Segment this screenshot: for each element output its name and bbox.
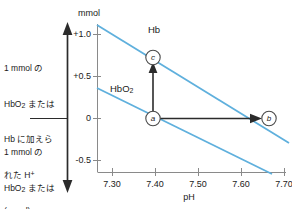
x-axis-title: pH xyxy=(169,192,209,204)
caption-upper-line-2: HbO2 または xyxy=(4,99,66,111)
x-tick-label-1: 7.30 xyxy=(95,179,129,191)
arrow-a-to-c xyxy=(149,62,158,114)
caption-upper-line-1: 1 mmol の xyxy=(4,63,66,75)
series-label-hbo2: HbO2 xyxy=(110,83,133,96)
x-tick-label-5: 7.70 xyxy=(267,179,292,191)
series-label-hbo2-subscript: 2 xyxy=(130,87,134,94)
caption-lower-line-2: HbO2 または xyxy=(4,183,66,195)
x-tick-label-2: 7.40 xyxy=(138,179,172,191)
marker-label-b: b xyxy=(262,112,276,126)
caption-lower-line-2-pre: HbO xyxy=(4,183,21,193)
caption-lower: 1 mmol の HbO2 または Hb から除去 された H+ (mmol) xyxy=(4,124,66,209)
marker-label-c: c xyxy=(146,51,160,65)
x-tick-label-3: 7.50 xyxy=(181,179,215,191)
y-tick-label-1: +1.0 xyxy=(60,29,91,41)
caption-upper-line-2-pre: HbO xyxy=(4,99,21,109)
x-tick-label-4: 7.60 xyxy=(224,179,258,191)
figure-container: mmol +1.0 +0.5 0 -0.5 7.30 7.40 7.50 7.6… xyxy=(0,0,292,209)
y-axis-unit-label: mmol xyxy=(78,8,100,20)
arrow-a-to-b xyxy=(157,114,262,123)
series-line-hbo2 xyxy=(97,88,272,174)
series-label-hbo2-text: HbO xyxy=(110,83,130,94)
caption-upper-line-2-post: または xyxy=(25,99,54,109)
series-label-hb: Hb xyxy=(148,24,160,36)
caption-lower-line-2-post: または xyxy=(25,183,54,193)
caption-lower-line-1: 1 mmol の xyxy=(4,147,66,159)
marker-label-a: a xyxy=(146,112,160,126)
